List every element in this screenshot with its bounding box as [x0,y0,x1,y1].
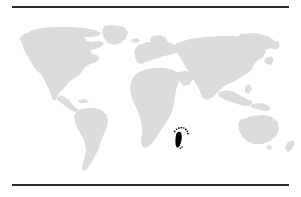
land-greenland [102,25,128,45]
top-divider-rule [12,6,289,8]
land-japan [264,56,274,65]
range-dot-seychelles-1 [183,127,185,129]
world-map-svg [0,10,301,182]
land-south-america [74,108,108,171]
landmass-group [19,25,295,171]
range-dot-mascarene-mauritius [187,133,189,135]
world-map [0,10,301,182]
land-kamchatka [271,41,280,50]
land-caribbean [78,99,89,103]
range-dot-seychelles-2 [185,129,187,131]
range-dot-mascarene-reunion [174,131,176,133]
land-philippines [245,84,252,94]
range-dot-comoros-north-3 [181,127,183,129]
land-new-zealand [285,140,295,152]
range-madagascar [175,132,181,148]
range-dot-aldabra [186,131,188,133]
land-tasmania [266,145,272,150]
range-dot-comoros-north-2 [178,127,180,129]
land-new-guinea [251,103,270,111]
range-dot-south-point-2 [181,146,182,147]
land-central-america [57,95,78,112]
distribution-range-group [174,127,189,149]
land-africa [130,68,180,148]
land-australia [238,115,279,144]
bottom-divider-rule [12,184,289,186]
land-iceland [131,38,140,43]
range-dot-comoros-north-1 [176,128,178,130]
range-dot-south-point-1 [180,147,182,149]
land-north-america [22,27,104,101]
distribution-map-figure [0,0,301,197]
